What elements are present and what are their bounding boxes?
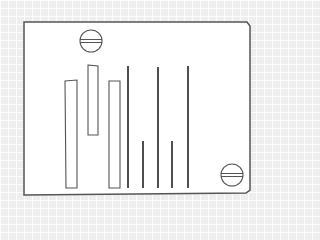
bottom-right-screw-icon [221,164,243,186]
top-screw-icon [80,30,102,52]
plate-diagram [0,0,262,210]
diagram-canvas [0,0,262,210]
mounting-plate [24,22,250,195]
